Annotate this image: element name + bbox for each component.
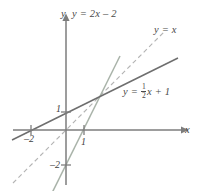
x-axis-label: x bbox=[185, 125, 190, 136]
half-line-prefix: y = bbox=[123, 86, 141, 97]
equation-label-steep-line: y = 2x – 2 bbox=[72, 9, 117, 20]
tick-label-y-1: 1 bbox=[56, 104, 61, 114]
tick-label-x-neg2: –2 bbox=[24, 134, 34, 144]
tick-label-x-1: 1 bbox=[81, 137, 86, 147]
one-half-fraction: 12 bbox=[141, 83, 146, 99]
half-line-suffix: x + 1 bbox=[147, 86, 170, 97]
line-y-equals-2x-minus-2 bbox=[52, 56, 120, 191]
fraction-denominator: 2 bbox=[141, 92, 146, 100]
equation-label-identity-line: y = x bbox=[154, 25, 177, 36]
y-axis-label: y bbox=[61, 9, 66, 20]
equation-label-half-slope-line: y = 12x + 1 bbox=[123, 83, 170, 99]
line-y-equals-x bbox=[13, 32, 164, 183]
graph-figure: y = 2x – 2 y = x y = 12x + 1 y x –2 1 1 … bbox=[0, 0, 197, 191]
tick-label-y-neg2: –2 bbox=[50, 160, 60, 170]
